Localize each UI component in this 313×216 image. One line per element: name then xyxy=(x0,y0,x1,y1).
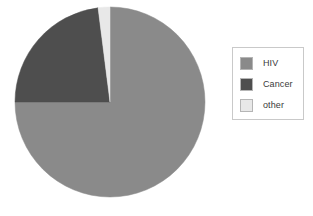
legend-label-cancer: Cancer xyxy=(263,80,293,89)
pie-slice-group xyxy=(15,7,205,197)
chart-legend: HIV Cancer other xyxy=(232,47,304,120)
legend-label-hiv: HIV xyxy=(263,59,278,68)
legend-label-other: other xyxy=(263,101,284,110)
legend-swatch-hiv xyxy=(240,57,253,70)
legend-swatch-cancer xyxy=(240,78,253,91)
figure-caption xyxy=(10,208,230,216)
legend-item-hiv[interactable]: HIV xyxy=(240,53,303,74)
pie-chart-figure: HIV Cancer other xyxy=(0,0,313,216)
legend-item-cancer[interactable]: Cancer xyxy=(240,74,303,95)
pie-chart-plot-area xyxy=(12,4,208,200)
pie-slice-cancer[interactable] xyxy=(15,8,110,102)
legend-swatch-other xyxy=(240,99,253,112)
legend-item-other[interactable]: other xyxy=(240,95,303,116)
pie-chart-svg xyxy=(12,4,208,200)
